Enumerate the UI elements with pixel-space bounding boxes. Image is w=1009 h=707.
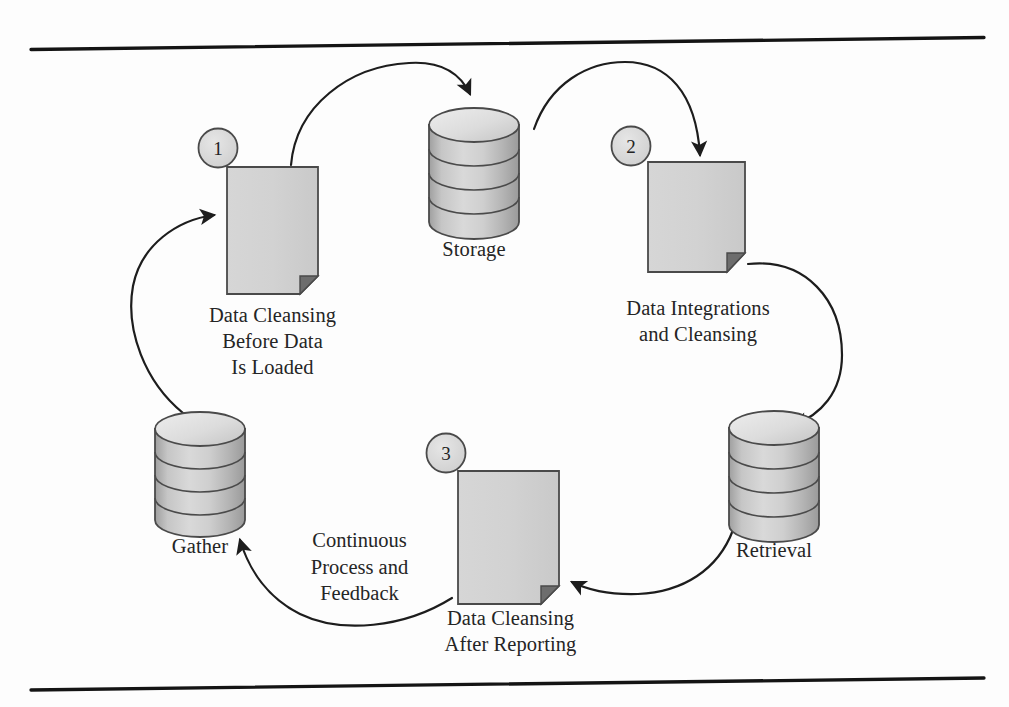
arrow-doc2-to-retrieval (748, 263, 842, 425)
figure-canvas: 1 2 3 Storage Retrieval Gather Data Clea… (0, 0, 1009, 707)
arrow-doc3-to-gather (240, 540, 452, 626)
arrow-gather-to-doc1 (131, 215, 214, 413)
bottom-rule (31, 678, 984, 690)
step-badge-3-circle (427, 434, 466, 473)
gather-cylinder (155, 412, 245, 537)
step-badge-1-circle (199, 129, 238, 168)
diagram-svg (0, 0, 1009, 707)
retrieval-cylinder (729, 411, 819, 542)
arrow-retrieval-to-doc3 (572, 530, 733, 594)
document-shape-doc3 (458, 471, 559, 604)
step-badge-2-circle (612, 127, 651, 166)
document-shape-doc2 (648, 162, 745, 272)
storage-cylinder (429, 108, 519, 239)
document-shape-doc1 (227, 167, 318, 294)
top-rule (31, 38, 984, 50)
